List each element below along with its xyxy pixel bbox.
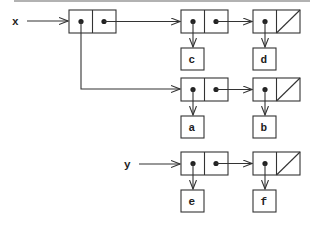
variable-y-label: y xyxy=(124,159,131,171)
cons-cell-d xyxy=(253,10,300,33)
svg-text:a: a xyxy=(189,122,196,134)
svg-text:d: d xyxy=(261,54,268,66)
box-pointer-diagram: x c d xyxy=(0,0,316,226)
leaf-c: c xyxy=(181,48,204,70)
svg-text:b: b xyxy=(261,122,268,134)
svg-text:f: f xyxy=(261,196,268,208)
variable-x-label: x xyxy=(12,16,19,28)
leaf-a: a xyxy=(181,116,204,138)
leaf-e: e xyxy=(181,190,204,212)
svg-text:e: e xyxy=(189,196,196,208)
cons-cell-b xyxy=(253,78,300,101)
leaf-d: d xyxy=(253,48,276,70)
leaf-f: f xyxy=(253,190,276,212)
svg-text:c: c xyxy=(189,54,196,66)
leaf-b: b xyxy=(253,116,276,138)
cons-cell-f xyxy=(253,152,300,175)
